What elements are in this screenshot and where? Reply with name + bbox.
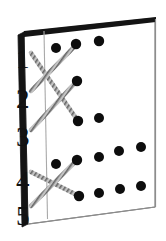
dot [136, 181, 146, 191]
dot [71, 39, 81, 49]
dot [74, 191, 84, 201]
row-label-5: 5 [16, 203, 30, 230]
row-label-4: 4 [16, 168, 30, 195]
dot [115, 184, 125, 194]
row-label-3: 3 [16, 124, 30, 151]
dot [51, 159, 61, 169]
row-label-2: 2 [16, 86, 30, 113]
row-label-1: 1 [16, 46, 30, 73]
figure-root: 1 2 3 4 5 [0, 0, 166, 241]
dot [51, 43, 61, 53]
dot [94, 113, 104, 123]
dot [73, 116, 83, 126]
dot [94, 152, 104, 162]
dot [94, 36, 104, 46]
dot [72, 155, 82, 165]
dot [136, 142, 146, 152]
dot [72, 76, 82, 86]
dot [94, 188, 104, 198]
dot [114, 146, 124, 156]
